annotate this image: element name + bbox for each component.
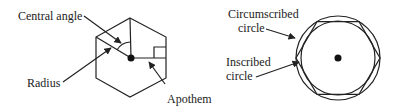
apothem-label: Apothem (167, 92, 212, 106)
central-angle-label: Central angle (18, 9, 82, 23)
central-angle-arrow (84, 16, 121, 43)
circumscribed-label-line1: Circumscribed (228, 7, 299, 21)
central-angle-arc (117, 42, 130, 50)
right-angle-marker (154, 47, 166, 58)
circumscribed-arrow (266, 29, 295, 38)
inscribed-label-line1: Inscribed (226, 55, 271, 69)
hexagon-diagram (63, 16, 166, 97)
radius-arrow (63, 48, 111, 82)
hexagon-center-dot (128, 55, 135, 62)
diagram-canvas: Central angle Radius Apothem Circumscrib… (0, 0, 400, 106)
circle-center-dot (335, 55, 342, 62)
radius-label: Radius (27, 76, 61, 90)
inscribed-label-line2: circle (226, 69, 253, 83)
circumscribed-label-line2: circle (238, 21, 265, 35)
radius-line-top (130, 18, 131, 58)
circles-diagram (256, 16, 380, 100)
polygon-diagram-figure: Central angle Radius Apothem Circumscrib… (0, 0, 400, 106)
apothem-arrow (149, 62, 165, 84)
